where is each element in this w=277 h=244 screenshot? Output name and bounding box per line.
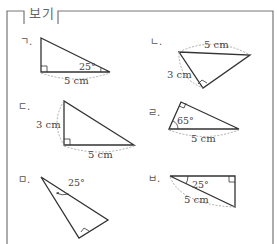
example-box-title: 보기	[29, 3, 55, 22]
item-label-a: ㄱ.	[20, 33, 32, 48]
triangle-e: 25°	[41, 177, 108, 238]
angle-label: 25°	[68, 177, 85, 188]
triangle-a: 25° 5 cm	[41, 38, 110, 86]
triangle-d: 65° 5 cm	[169, 102, 239, 144]
item-label-b: ㄴ.	[150, 33, 162, 48]
horizontal-leg-label: 5 cm	[88, 149, 113, 160]
example-box-frame: 25° 5 cm 5 cm 3 cm 3 cm 5 cm 65° 5 cm 25…	[0, 0, 277, 244]
triangle-c: 3 cm 5 cm	[36, 101, 134, 160]
item-label-f: ㅂ.	[148, 170, 160, 185]
hyp-label: 5 cm	[191, 133, 216, 144]
angle-label: 65°	[177, 115, 194, 126]
angle-label: 25°	[192, 179, 209, 190]
item-label-d: ㄹ.	[148, 104, 160, 119]
angle-label: 25°	[79, 61, 96, 72]
vertical-leg-label: 3 cm	[36, 119, 61, 130]
hyp-label: 5 cm	[184, 194, 209, 205]
triangle-b: 5 cm 3 cm	[167, 39, 250, 88]
item-label-e: ㅁ.	[18, 171, 30, 186]
side-label: 5 cm	[64, 75, 89, 86]
hyp-label: 5 cm	[204, 39, 229, 50]
leg-label: 3 cm	[167, 69, 192, 80]
triangle-f: 25° 5 cm	[170, 176, 235, 207]
item-label-c: ㄷ.	[18, 98, 30, 113]
